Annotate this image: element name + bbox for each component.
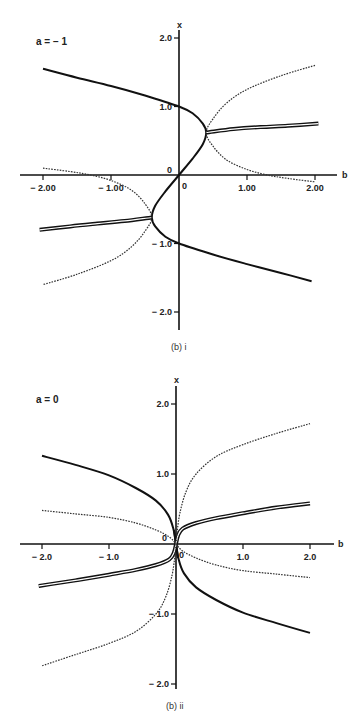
x-tick-label: − 1.0 [99, 552, 119, 562]
y-tick-label: − 1.0 [149, 609, 169, 619]
param-label: a = − 1 [36, 36, 68, 47]
b-axis-label: b [342, 170, 348, 180]
y-tick-label: 2.0 [159, 33, 172, 43]
x-axis-label: x [174, 375, 179, 385]
y-tick-label: − 2.0 [152, 307, 172, 317]
y-tick-label: 1.0 [156, 469, 169, 479]
b-axis-label: b [338, 539, 344, 549]
x-tick-label: − 2.00 [30, 183, 55, 193]
panel-a-zero: a = 0 b x 0 − 2.0− 1.001.02.0 2.01.0− 1.… [20, 375, 344, 711]
curve-triple-right [176, 503, 310, 544]
curve-triple-left-inner [40, 218, 152, 230]
curve-solid-lower-right [174, 530, 310, 633]
caption: (b) i [171, 342, 187, 352]
figure: a = − 1 b x 0 − 2.00− 1.0001.002.00 2.01… [0, 0, 360, 724]
y-tick-label: − 2.0 [149, 679, 169, 689]
x-tick-label: − 2.0 [32, 552, 52, 562]
x-tick-label: 0 [179, 550, 184, 560]
panel-a-minus-1: a = − 1 b x 0 − 2.00− 1.0001.002.00 2.01… [20, 20, 348, 352]
curve-dotted-lower [42, 544, 176, 666]
x-tick-label: 2.0 [304, 552, 317, 562]
curve-triple-left-inner [39, 544, 176, 586]
x-tick-label: 2.00 [306, 183, 324, 193]
curve-dotted-upper [176, 424, 310, 544]
x-tick-label: 1.00 [238, 183, 256, 193]
x-axis-label: x [177, 20, 182, 30]
origin-label: 0 [167, 165, 172, 175]
curve-dotted-upper-left [42, 510, 176, 544]
x-tick-label: 0 [182, 181, 187, 191]
x-tick-label: 1.0 [237, 552, 250, 562]
caption: (b) ii [166, 701, 184, 711]
y-tick-label: 2.0 [156, 399, 169, 409]
param-label: a = 0 [36, 394, 59, 405]
